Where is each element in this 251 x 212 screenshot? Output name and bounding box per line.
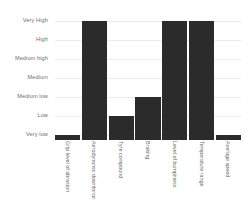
y-axis: Very High High Medium high Medium Medium… xyxy=(0,0,52,212)
plot-area xyxy=(55,16,241,140)
x-tick-label: Temperature range xyxy=(198,141,204,207)
bar[interactable] xyxy=(162,21,187,140)
bar-chart: Very High High Medium high Medium Medium… xyxy=(0,0,251,212)
x-tick-label: Braking xyxy=(145,141,151,207)
y-tick-label: High xyxy=(36,37,48,43)
x-tick-label: Aerodynamic downforce xyxy=(91,141,97,207)
x-tick-slot: Average speed xyxy=(216,141,241,212)
y-tick-label: Very High xyxy=(23,18,48,24)
x-tick-slot: Tyre compound xyxy=(109,141,134,212)
x-tick-label: Level of bumpiness xyxy=(172,141,178,207)
y-tick-label: Low xyxy=(37,113,48,119)
y-tick-label: Medium high xyxy=(15,56,48,62)
x-tick-label: Grip level of abrasion xyxy=(65,141,71,207)
bar[interactable] xyxy=(55,135,80,140)
x-tick-slot: Aerodynamic downforce xyxy=(82,141,107,212)
y-tick-label: Medium xyxy=(28,75,49,81)
x-tick-slot: Grip level of abrasion xyxy=(55,141,80,212)
y-tick-label: Medium low xyxy=(17,94,48,100)
x-tick-label: Average speed xyxy=(225,141,231,207)
x-tick-slot: Braking xyxy=(135,141,160,212)
y-tick-label: Very low xyxy=(26,132,48,138)
x-axis: Grip level of abrasion Aerodynamic downf… xyxy=(55,141,241,212)
bar-series xyxy=(55,16,241,140)
x-tick-slot: Temperature range xyxy=(189,141,214,212)
x-tick-label: Tyre compound xyxy=(118,141,124,207)
bar[interactable] xyxy=(135,97,160,140)
bar[interactable] xyxy=(216,135,241,140)
bar[interactable] xyxy=(189,21,214,140)
bar[interactable] xyxy=(109,116,134,140)
x-tick-slot: Level of bumpiness xyxy=(162,141,187,212)
bar[interactable] xyxy=(82,21,107,140)
